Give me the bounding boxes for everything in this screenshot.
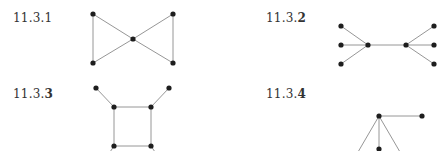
graph-vertex: [338, 23, 343, 28]
graph-11-3-4: [358, 113, 425, 151]
graph-vertex: [148, 143, 153, 148]
graph-vertex: [431, 42, 436, 47]
graph-vertex: [111, 143, 116, 148]
graph-edge: [341, 26, 368, 45]
graph-vertex: [93, 85, 98, 90]
graph-edge: [341, 45, 368, 64]
graph-vertex: [365, 42, 370, 47]
graph-edge: [93, 39, 133, 63]
graph-edge: [406, 26, 434, 45]
graph-vertex: [376, 146, 381, 151]
graph-vertex: [90, 11, 95, 16]
graph-vertex: [170, 60, 175, 65]
graph-vertex: [130, 36, 135, 41]
graph-vertex: [376, 113, 381, 118]
graph-11-3-1: [90, 11, 175, 65]
graph-11-3-3: [93, 85, 171, 151]
graph-vertex: [419, 113, 424, 118]
graph-vertex: [111, 104, 116, 109]
graph-vertex: [90, 60, 95, 65]
graph-edge: [93, 14, 133, 39]
graph-vertex: [431, 23, 436, 28]
graph-edge: [151, 88, 169, 107]
graph-11-3-2: [338, 23, 436, 66]
graph-edge: [379, 116, 400, 151]
graph-edge: [358, 116, 379, 151]
graph-vertex: [403, 42, 408, 47]
graph-vertex: [170, 11, 175, 16]
graph-edge: [406, 45, 434, 64]
graph-edge: [133, 14, 173, 39]
graph-vertex: [431, 61, 436, 66]
graph-edge: [96, 88, 114, 107]
graph-vertex: [148, 104, 153, 109]
graph-vertex: [166, 85, 171, 90]
graphs-canvas: [0, 0, 448, 151]
graph-vertex: [338, 42, 343, 47]
graph-edge: [133, 39, 173, 63]
graph-vertex: [338, 61, 343, 66]
